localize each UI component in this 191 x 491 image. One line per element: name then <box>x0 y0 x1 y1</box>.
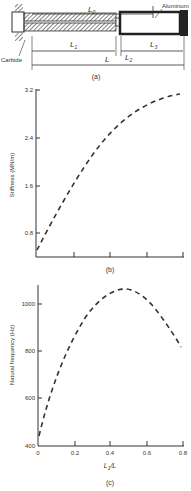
caption-c: (c) <box>106 479 114 487</box>
end-cap <box>180 10 188 36</box>
label-aluminum: Aluminum <box>162 3 189 9</box>
label-carbide: Carbide <box>1 57 23 63</box>
ytick-c-3: 400 <box>25 443 36 449</box>
label-l1: L1 <box>70 40 77 50</box>
frequency-chart: 1000 800 600 400 0 0.2 0.4 0.6 0.8 Natur… <box>9 285 188 487</box>
xlabel-c: L1/L <box>104 462 117 471</box>
xtick-c-3: 0.6 <box>143 450 152 456</box>
ytick-b-0: 3.2 <box>25 87 34 93</box>
threaded-shank-lower <box>24 23 116 31</box>
wall-hatch-bottom <box>15 33 23 41</box>
label-l: L <box>105 55 109 64</box>
ytick-c-0: 1000 <box>22 301 36 307</box>
ylabel-c: Natural frequency (Hz) <box>9 325 15 385</box>
label-l2: L2 <box>125 53 132 63</box>
figure: L0 Aluminum Carbide L1 L2 L3 L (a) 3.2 2… <box>0 0 191 491</box>
aluminum-tube <box>120 12 180 34</box>
ylabel-b: Stiffness (MN/m) <box>9 153 15 198</box>
wall-hatch-top <box>15 4 23 12</box>
xtick-c-1: 0.2 <box>71 450 80 456</box>
caption-a: (a) <box>92 73 101 81</box>
ytick-c-2: 600 <box>25 395 36 401</box>
ytick-b-1: 2.4 <box>25 135 34 141</box>
xtick-c-2: 0.4 <box>106 450 115 456</box>
caption-b: (b) <box>106 266 115 274</box>
frequency-curve <box>39 289 181 436</box>
label-l0: L0 <box>88 5 95 15</box>
stiffness-curve <box>37 94 180 250</box>
carbide-tip <box>12 12 24 32</box>
ytick-c-1: 800 <box>25 348 36 354</box>
stiffness-chart: 3.2 2.4 1.6 0.8 Stiffness (MN/m) (b) <box>9 87 184 274</box>
xtick-c-0: 0 <box>36 450 40 456</box>
bar-diagram: L0 Aluminum Carbide L1 L2 L3 L (a) <box>1 3 189 81</box>
ytick-b-3: 0.8 <box>25 230 34 236</box>
ytick-b-2: 1.6 <box>25 183 34 189</box>
label-l3: L3 <box>150 40 157 50</box>
xtick-c-4: 0.8 <box>179 450 188 456</box>
